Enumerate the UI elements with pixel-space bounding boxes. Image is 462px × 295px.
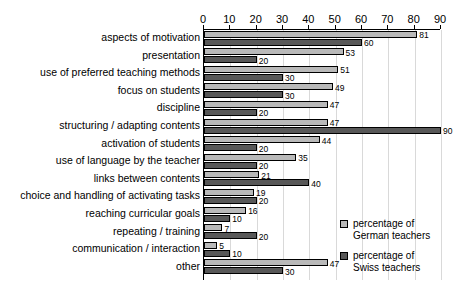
chart-row: use of language by the teacher3520 [204,153,441,171]
chart-row: presentation5320 [204,48,441,66]
bar-light [204,48,344,55]
category-label: repeating / training [0,226,200,237]
bar-light [204,66,338,73]
chart-legend: percentage ofGerman teacherspercentage o… [340,218,430,282]
category-label: discipline [0,102,200,113]
category-label: choice and handling of activating tasks [0,190,200,201]
bar-light [204,83,333,90]
bar-dark [204,197,257,204]
bar-light [204,207,246,214]
bar-value-label: 20 [259,57,268,65]
bar-dark [204,179,309,186]
chart-row: activation of students4420 [204,136,441,154]
legend-swatch [340,252,348,260]
x-axis-tick-label: 50 [323,13,347,25]
category-label: communication / interaction [0,243,200,254]
category-label: aspects of motivation [0,32,200,43]
bar-dark [204,267,283,274]
bar-value-label: 20 [259,162,268,170]
bar-light [204,154,296,161]
x-axis-tick-mark [282,25,283,29]
chart-row: links between contents2140 [204,171,441,189]
bar-value-label: 51 [340,66,349,74]
legend-entry: percentage ofSwiss teachers [340,250,430,274]
bar-value-label: 20 [259,145,268,153]
x-axis-tick-label: 40 [296,13,320,25]
x-axis-tick-mark [440,25,441,29]
bar-light [204,119,328,126]
bar-value-label: 20 [259,109,268,117]
bar-value-label: 49 [335,84,344,92]
chart-row: structuring / adapting contents4790 [204,118,441,136]
bar-chart: 0102030405060708090 aspects of motivatio… [0,0,462,295]
legend-label-line2: German teachers [353,230,430,242]
bar-dark [204,74,283,81]
bar-value-label: 20 [259,233,268,241]
bar-dark [204,215,230,222]
legend-label-line1: percentage of [353,250,414,261]
bar-value-label: 10 [232,250,241,258]
x-axis-tick-mark [335,25,336,29]
bar-dark [204,39,362,46]
x-axis-tick-mark [414,25,415,29]
bar-light [204,224,222,231]
category-label: focus on students [0,85,200,96]
bar-value-label: 10 [232,215,241,223]
category-label: structuring / adapting contents [0,120,200,131]
category-label: other [0,261,200,272]
chart-row: discipline4720 [204,100,441,118]
bar-value-label: 81 [419,31,428,39]
bar-dark [204,56,257,63]
bar-light [204,189,254,196]
x-axis-tick-labels: 0102030405060708090 [0,13,462,27]
bar-value-label: 53 [346,49,355,57]
legend-swatch [340,220,348,228]
gridline [441,30,442,280]
bar-light [204,101,328,108]
x-axis-tick-mark [308,25,309,29]
bar-dark [204,127,441,134]
x-axis-tick-label: 90 [428,13,452,25]
category-label: links between contents [0,173,200,184]
category-label: presentation [0,50,200,61]
bar-value-label: 20 [259,197,268,205]
bar-dark [204,91,283,98]
legend-label-line1: percentage of [353,218,414,229]
bar-value-label: 44 [322,137,331,145]
category-label: reaching curricular goals [0,208,200,219]
x-axis-tick-label: 60 [349,13,373,25]
chart-row: use of preferred teaching methods5130 [204,65,441,83]
x-axis-tick-mark [256,25,257,29]
category-label: use of language by the teacher [0,155,200,166]
chart-row: choice and handling of activating tasks1… [204,188,441,206]
bar-light [204,136,320,143]
x-axis-tick-label: 0 [191,13,215,25]
bar-dark [204,250,230,257]
bar-value-label: 60 [364,39,373,47]
bar-value-label: 16 [248,207,257,215]
category-label: activation of students [0,138,200,149]
x-axis-tick-label: 10 [217,13,241,25]
legend-entry: percentage ofGerman teachers [340,218,430,242]
chart-row: focus on students4930 [204,83,441,101]
legend-label-line2: Swiss teachers [353,262,430,274]
bar-light [204,259,328,266]
bar-dark [204,144,257,151]
bar-light [204,31,417,38]
bar-dark [204,232,257,239]
bar-light [204,242,217,249]
x-axis-tick-label: 70 [375,13,399,25]
x-axis-tick-mark [387,25,388,29]
bar-light [204,171,259,178]
bar-value-label: 35 [298,154,307,162]
chart-row: aspects of motivation8160 [204,30,441,48]
x-axis-tick-mark [203,25,204,29]
bar-value-label: 40 [311,180,320,188]
bar-value-label: 30 [285,268,294,276]
x-axis-tick-mark [361,25,362,29]
bar-value-label: 47 [330,260,339,268]
x-axis-tick-mark [229,25,230,29]
bar-value-label: 90 [443,127,452,135]
x-axis-tick-label: 20 [244,13,268,25]
bar-value-label: 47 [330,101,339,109]
